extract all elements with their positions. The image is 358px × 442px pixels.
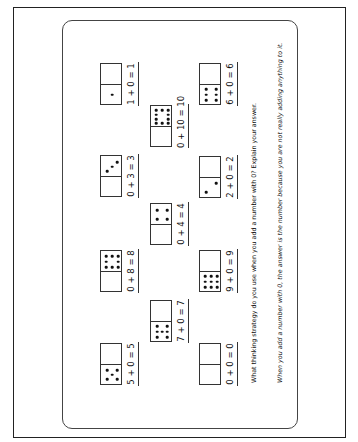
equation-label: 0 + 8 = 8 xyxy=(126,249,139,293)
pip-dot xyxy=(216,286,219,289)
domino-top-half xyxy=(200,344,220,364)
equation-label: 0 + 0 = 0 xyxy=(225,342,238,386)
pip-dot xyxy=(156,218,159,221)
domino-top-half xyxy=(101,344,121,364)
domino xyxy=(199,343,221,385)
domino-top-half xyxy=(151,106,171,126)
domino xyxy=(100,155,122,197)
pip-dot xyxy=(111,165,114,168)
equation-label: 2 + 0 = 2 xyxy=(225,155,238,199)
domino-top-half xyxy=(200,251,220,271)
pip-dot xyxy=(210,286,213,289)
pip-dot xyxy=(156,330,159,333)
pip-dot xyxy=(105,260,108,263)
pip-dot xyxy=(111,266,114,269)
pip-dot xyxy=(116,161,119,164)
domino xyxy=(150,300,172,342)
pip-dot xyxy=(166,336,169,339)
pip-dot xyxy=(215,182,218,185)
domino xyxy=(199,156,221,198)
domino-bottom-half xyxy=(101,364,121,384)
domino-bottom-half xyxy=(151,126,171,146)
pip-dot xyxy=(117,266,120,269)
pip-dot xyxy=(111,93,114,96)
domino-top-half xyxy=(200,157,220,177)
pip-dot xyxy=(155,109,158,112)
domino-bottom-half xyxy=(101,271,121,291)
pip-dot xyxy=(156,336,159,339)
answer-text: When you add a number with 0, the answer… xyxy=(276,43,284,383)
domino-bottom-half xyxy=(151,321,171,341)
pip-dot xyxy=(205,93,208,96)
pip-dot xyxy=(205,99,208,102)
pip-dot xyxy=(166,209,169,212)
equation-label: 6 + 0 = 6 xyxy=(225,62,238,106)
domino xyxy=(150,203,172,245)
domino-top-half xyxy=(101,251,121,271)
pip-dot xyxy=(216,275,219,278)
pip-dot xyxy=(105,266,108,269)
pip-dot xyxy=(204,280,207,283)
domino-top-half xyxy=(200,64,220,84)
pip-dot xyxy=(105,255,108,258)
domino-top-half xyxy=(151,301,171,321)
pip-dot xyxy=(155,118,158,121)
equation-label: 0 + 10 = 10 xyxy=(176,104,189,148)
pip-dot xyxy=(116,369,119,372)
domino xyxy=(100,250,122,292)
domino-bottom-half xyxy=(101,84,121,104)
domino xyxy=(100,343,122,385)
pip-dot xyxy=(116,378,119,381)
domino-bottom-half xyxy=(200,271,220,291)
domino-bottom-half xyxy=(200,84,220,104)
domino-top-half xyxy=(151,204,171,224)
equation-label: 9 + 0 = 9 xyxy=(225,249,238,293)
pip-dot xyxy=(205,191,208,194)
domino-top-half xyxy=(101,156,121,176)
pip-dot xyxy=(106,369,109,372)
pip-dot xyxy=(156,325,159,328)
pip-dot xyxy=(117,260,120,263)
pip-dot xyxy=(167,122,170,125)
pip-dot xyxy=(215,88,218,91)
equation-label: 0 + 4 = 4 xyxy=(176,202,189,246)
pip-dot xyxy=(204,286,207,289)
domino-bottom-half xyxy=(200,364,220,384)
domino-top-half xyxy=(101,64,121,84)
pip-dot xyxy=(216,280,219,283)
pip-dot xyxy=(167,118,170,121)
domino xyxy=(150,105,172,147)
equation-label: 7 + 0 = 7 xyxy=(176,299,189,343)
domino xyxy=(100,63,122,105)
pip-dot xyxy=(205,88,208,91)
equation-label: 1 + 0 = 1 xyxy=(126,62,139,106)
domino xyxy=(199,250,221,292)
pip-dot xyxy=(117,255,120,258)
equation-label: 0 + 3 = 3 xyxy=(126,154,139,198)
pip-dot xyxy=(210,280,213,283)
domino-bottom-half xyxy=(151,224,171,244)
question-text: What thinking strategy do you use when y… xyxy=(250,103,258,383)
pip-dot xyxy=(156,209,159,212)
pip-dot xyxy=(204,275,207,278)
domino xyxy=(199,63,221,105)
pip-dot xyxy=(161,122,164,125)
pip-dot xyxy=(210,275,213,278)
domino-bottom-half xyxy=(101,176,121,196)
pip-dot xyxy=(215,93,218,96)
equation-label: 5 + 0 = 5 xyxy=(126,342,139,386)
pip-dot xyxy=(166,218,169,221)
pip-dot xyxy=(106,378,109,381)
pip-dot xyxy=(155,113,158,116)
pip-dot xyxy=(215,99,218,102)
domino-bottom-half xyxy=(200,177,220,197)
pip-dot xyxy=(111,373,114,376)
pip-dot xyxy=(111,255,114,258)
pip-dot xyxy=(106,170,109,173)
pip-dot xyxy=(155,122,158,125)
pip-dot xyxy=(167,113,170,116)
pip-dot xyxy=(161,109,164,112)
pip-dot xyxy=(161,330,164,333)
pip-dot xyxy=(166,325,169,328)
pip-dot xyxy=(167,109,170,112)
